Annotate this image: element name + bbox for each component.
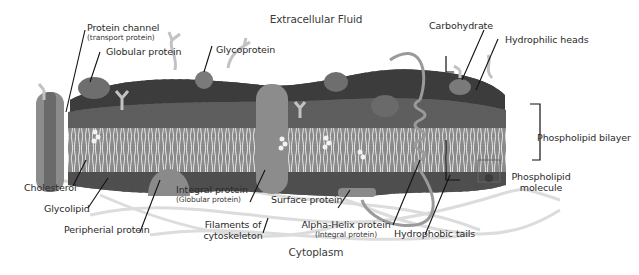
top-protein-2 [371, 95, 399, 117]
cholesterol-label: Cholesterol [24, 182, 77, 193]
phospholipid-molecule-head [485, 174, 493, 182]
alpha-helix-text: Alpha-Helix protein [300, 219, 392, 230]
phospholipid-molecule-text: Phospholipid [505, 171, 577, 182]
glycoprotein-label: Glycoprotein [216, 44, 275, 55]
surface-protein-shape [338, 188, 376, 197]
carbohydrate-protein [449, 79, 471, 95]
integral-protein-sub: (Globular protein) [176, 195, 248, 204]
filaments-text: Filaments of [203, 219, 263, 230]
protein-channel-label: Protein channel (transport protein) [87, 22, 159, 42]
alpha-helix-label: Alpha-Helix protein (Integral protein) [300, 219, 392, 239]
top-protein-1 [324, 72, 348, 92]
glycolipid-label: Glycolipid [44, 203, 90, 214]
surface-protein-label: Surface protein [271, 194, 342, 205]
integral-protein-text: Integral protein [176, 184, 248, 195]
phospholipid-bilayer-label: Phospholipid bilayer [537, 132, 631, 143]
phospholipid-molecule-text2: molecule [505, 182, 577, 193]
alpha-helix-sub: (Integral protein) [300, 230, 392, 239]
hydrophobic-tails-label: Hydrophobic tails [394, 228, 475, 239]
phospholipid-molecule-label: Phospholipid molecule [505, 171, 577, 193]
glycoprotein-body [195, 71, 213, 89]
globular-protein [78, 77, 110, 99]
globular-protein-label: Globular protein [106, 46, 181, 57]
protein-channel [36, 92, 64, 192]
filaments-text2: cytoskeleton [203, 230, 263, 241]
protein-channel-text: Protein channel [87, 22, 159, 33]
hydrophilic-heads-label: Hydrophilic heads [505, 34, 589, 45]
peripherial-protein-label: Peripherial protein [64, 224, 150, 235]
integral-protein-label: Integral protein (Globular protein) [176, 184, 248, 204]
cytoplasm-label: Cytoplasm [256, 247, 376, 258]
protein-channel-sub: (transport protein) [87, 33, 159, 42]
extracellular-fluid-label: Extracellular Fluid [256, 14, 376, 25]
carbohydrate-label: Carbohydrate [429, 20, 493, 31]
filaments-label: Filaments of cytoskeleton [203, 219, 263, 241]
